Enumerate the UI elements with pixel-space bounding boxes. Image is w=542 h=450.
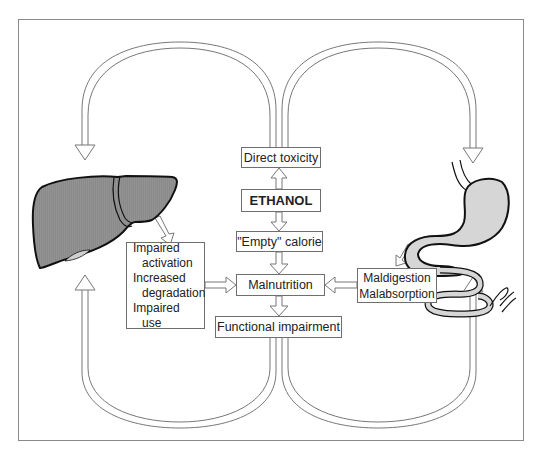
liver-effect-line: Increased bbox=[133, 271, 186, 286]
direct-toxicity-label: Direct toxicity bbox=[244, 151, 318, 165]
empty-calorie-label: "Empty" calorie bbox=[237, 235, 322, 249]
liver-effect-line: Impaired bbox=[133, 241, 180, 256]
liver-effect-line: Impaired bbox=[133, 301, 180, 316]
malnutrition-label: Malnutrition bbox=[248, 278, 313, 292]
functional-impairment-label: Functional impairment bbox=[217, 320, 340, 334]
liver-effect-line: activation bbox=[133, 256, 193, 271]
ethanol-box: ETHANOL bbox=[241, 189, 321, 212]
ethanol-label: ETHANOL bbox=[250, 193, 313, 208]
direct-toxicity-box: Direct toxicity bbox=[241, 147, 321, 168]
empty-calorie-box: "Empty" calorie bbox=[236, 231, 323, 252]
gut-effect-line: Maldigestion bbox=[363, 270, 430, 286]
gut-effect-line: Malabsorption bbox=[359, 286, 434, 302]
functional-impairment-box: Functional impairment bbox=[215, 316, 342, 338]
diagram-canvas bbox=[0, 0, 542, 450]
liver-effects-box: Impaired activation Increased degradatio… bbox=[126, 242, 205, 329]
top-loop-arrows bbox=[76, 36, 476, 148]
liver-effect-line: degradation bbox=[133, 286, 205, 301]
gut-effects-box: Maldigestion Malabsorption bbox=[357, 268, 437, 303]
liver-effect-line: use bbox=[133, 316, 161, 331]
malnutrition-box: Malnutrition bbox=[236, 274, 325, 296]
